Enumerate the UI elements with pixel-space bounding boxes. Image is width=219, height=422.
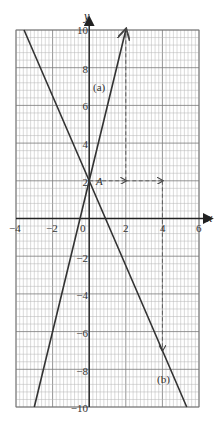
y-tick-6: 6 xyxy=(83,100,89,112)
x-tick-4: 4 xyxy=(160,222,166,234)
line-b-label: (b) xyxy=(157,373,170,386)
y-axis-label: y xyxy=(83,9,90,23)
y-tick-neg8: −8 xyxy=(76,365,88,377)
x-axis-label: x xyxy=(206,211,213,225)
x-tick-6: 6 xyxy=(196,222,202,234)
x-tick-neg2: −2 xyxy=(46,222,58,234)
x-tick-2: 2 xyxy=(123,222,129,234)
y-tick-8: 8 xyxy=(83,63,89,75)
line-graph: x y A (a) (b) 0 −4 −2 2 4 6 10 8 6 4 2 −… xyxy=(0,0,219,422)
y-tick-neg6: −6 xyxy=(76,327,88,339)
y-tick-neg4: −4 xyxy=(76,289,88,301)
y-tick-10: 10 xyxy=(77,24,89,36)
line-a-label: (a) xyxy=(93,81,106,94)
origin-label: 0 xyxy=(80,222,86,234)
point-a-label: A xyxy=(95,175,103,187)
y-tick-4: 4 xyxy=(83,138,89,150)
y-tick-2: 2 xyxy=(83,176,89,188)
x-tick-neg4: −4 xyxy=(9,222,21,234)
y-tick-neg2: −2 xyxy=(76,252,88,264)
y-tick-neg10: −10 xyxy=(71,402,89,414)
